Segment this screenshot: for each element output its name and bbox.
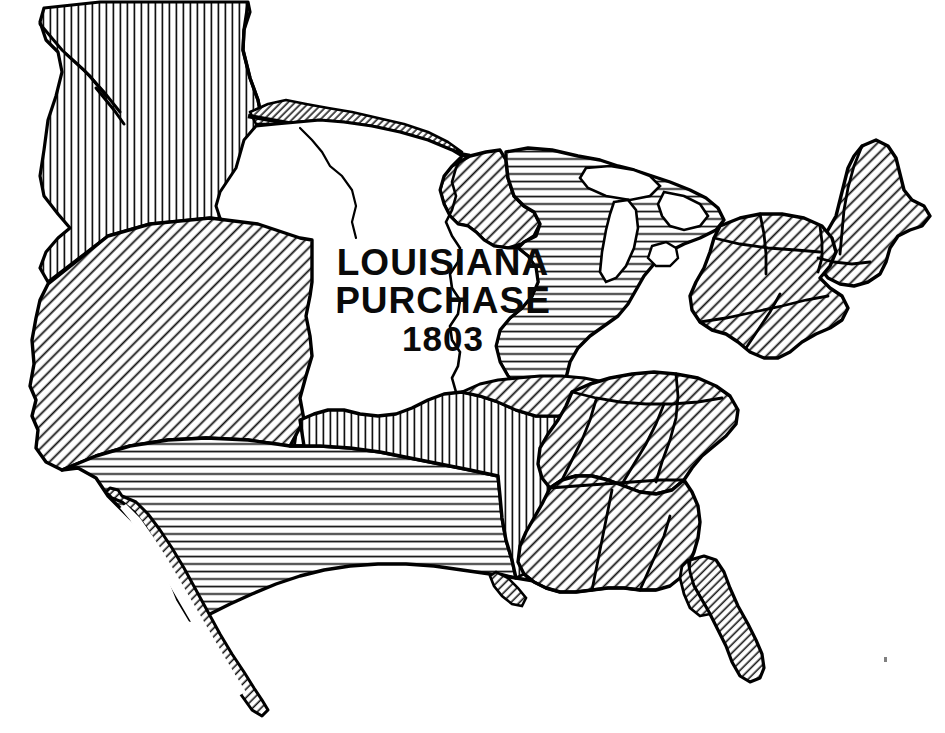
map-label-louisiana-purchase: LOUISIANA PURCHASE 1803 <box>318 244 568 357</box>
map-label-line-2: PURCHASE <box>318 282 568 320</box>
scan-artifact-speck <box>884 657 887 662</box>
region-florida <box>680 556 764 682</box>
map-label-line-3: 1803 <box>318 321 568 357</box>
map-figure: LOUISIANA PURCHASE 1803 <box>0 0 945 733</box>
map-label-line-1: LOUISIANA <box>318 244 568 282</box>
united-states-map-illustration <box>0 0 945 733</box>
